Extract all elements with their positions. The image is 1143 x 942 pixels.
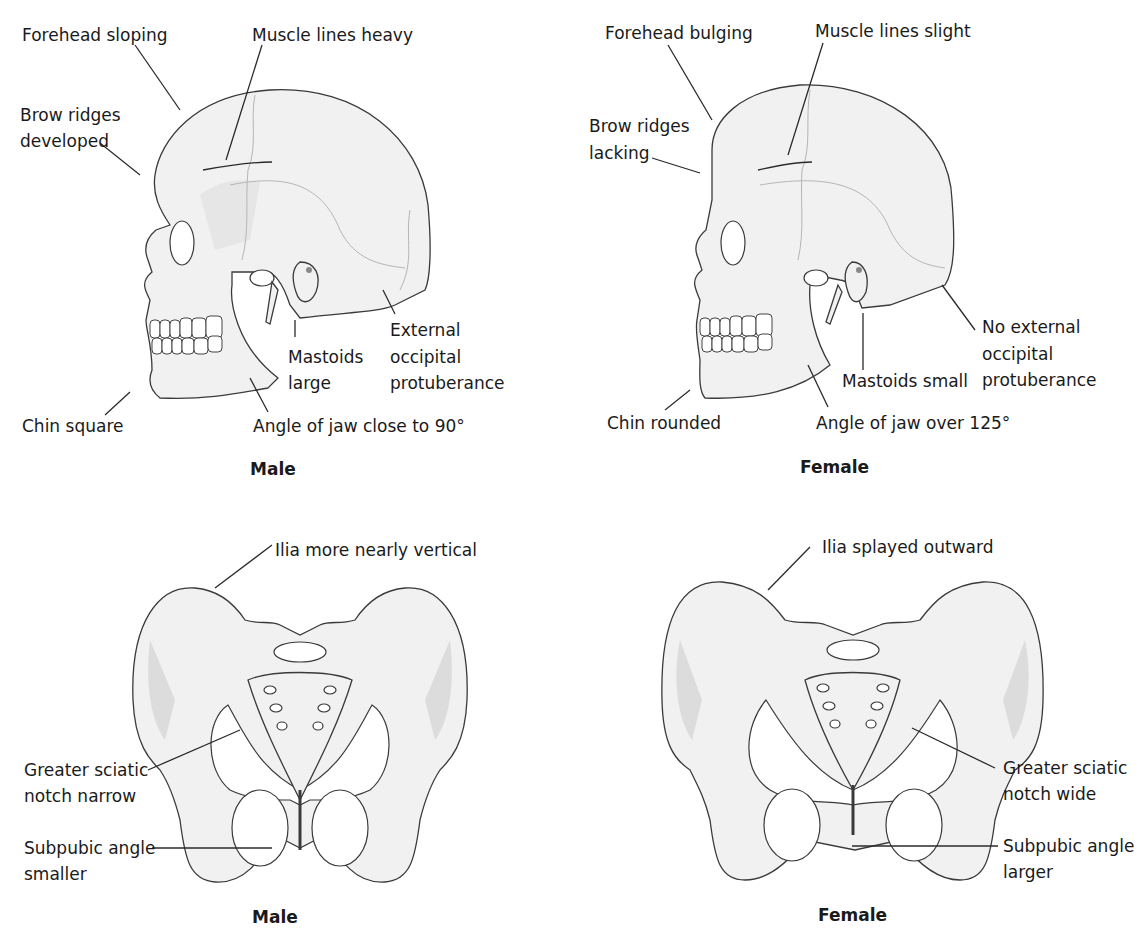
label-brow-ridges-2: lacking [589,140,650,166]
label-sciatic-1: Greater sciatic [24,757,148,783]
male-pelvis-illustration [133,545,467,882]
label-sciatic-1: Greater sciatic [1003,755,1127,781]
label-forehead-bulging: Forehead bulging [605,20,753,46]
label-brow-ridges-1: Brow ridges [589,113,690,139]
label-subpubic-2: larger [1003,859,1053,885]
label-brow-ridges-1: Brow ridges [20,102,121,128]
label-subpubic-1: Subpubic angle [24,835,155,861]
label-ilia-splayed: Ilia splayed outward [822,534,993,560]
label-brow-ridges-2: developed [20,128,109,154]
label-no-occipital-2: occipital [982,341,1053,367]
label-occipital-2: occipital [390,344,461,370]
caption-male-skull: Male [250,459,296,479]
label-sciatic-2: notch wide [1003,781,1096,807]
label-subpubic-1: Subpubic angle [1003,833,1134,859]
label-chin-rounded: Chin rounded [607,410,721,436]
label-jaw-angle: Angle of jaw close to 90° [253,413,465,439]
label-mastoids-1: Mastoids [288,344,363,370]
caption-female-pelvis: Female [818,905,887,925]
label-jaw-angle: Angle of jaw over 125° [816,410,1010,436]
diagram-artwork [0,0,1143,942]
caption-female-skull: Female [800,457,869,477]
female-pelvis-illustration [662,547,1043,880]
label-no-occipital-1: No external [982,314,1080,340]
label-ilia-vertical: Ilia more nearly vertical [275,537,477,563]
label-mastoids-2: large [288,370,331,396]
label-subpubic-2: smaller [24,861,87,887]
label-mastoids-small: Mastoids small [842,368,968,394]
caption-male-pelvis: Male [252,907,298,927]
female-skull-illustration [652,43,975,410]
male-skull-illustration [100,45,430,415]
label-occipital-1: External [390,317,461,343]
label-muscle-lines-heavy: Muscle lines heavy [252,22,413,48]
label-forehead-sloping: Forehead sloping [22,22,168,48]
label-muscle-lines-slight: Muscle lines slight [815,18,971,44]
label-no-occipital-3: protuberance [982,367,1096,393]
label-occipital-3: protuberance [390,370,504,396]
label-chin-square: Chin square [22,413,123,439]
label-sciatic-2: notch narrow [24,783,136,809]
